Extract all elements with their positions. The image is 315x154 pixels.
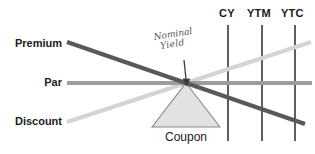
axis-label-cy: CY [219,8,235,19]
axis-label-ytm: YTM [247,8,271,19]
level-label-discount: Discount [0,116,62,127]
bond-yield-diagram: CY YTM YTC Premium Par Discount Coupon N… [0,0,315,154]
coupon-label: Coupon [146,131,226,143]
level-label-premium: Premium [0,38,62,49]
level-label-par: Par [0,77,62,88]
axis-label-ytc: YTC [281,8,304,19]
